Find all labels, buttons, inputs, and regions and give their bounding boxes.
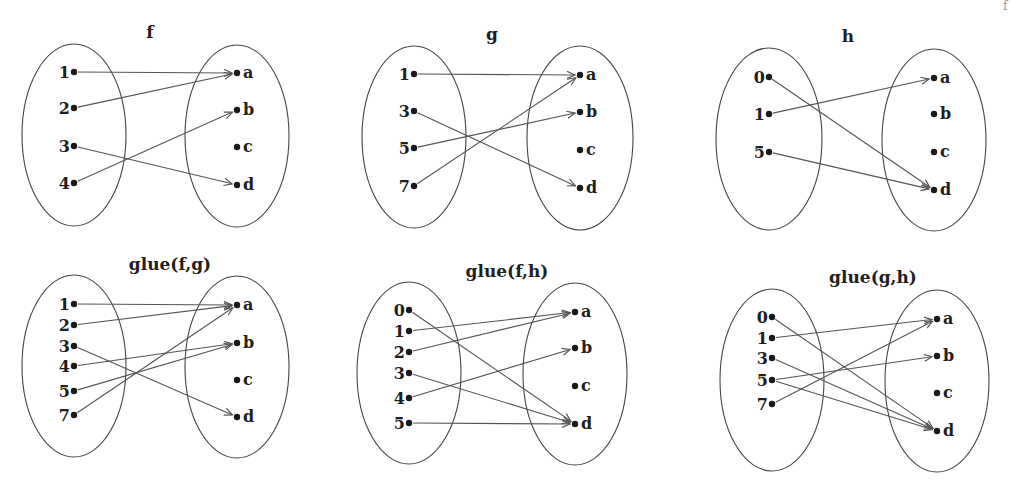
- codomain-element-label: c: [243, 370, 253, 389]
- codomain-element-dot: [572, 421, 578, 427]
- mapping-arrow-3-to-d: [78, 147, 232, 184]
- domain-element-label: 1: [757, 329, 768, 348]
- diagram-glue-f-g: glue(f,g)123457abcd: [22, 254, 289, 458]
- diagram-title: glue(f,h): [466, 261, 549, 281]
- mapping-arrow-5-to-b: [418, 113, 575, 147]
- domain-element-label: 3: [394, 364, 405, 383]
- domain-element-dot: [766, 111, 772, 117]
- codomain-element-dot: [577, 147, 583, 153]
- mapping-arrow-3-to-d: [776, 360, 933, 429]
- mapping-arrow-5-to-b: [776, 357, 932, 380]
- domain-element-label: 1: [59, 295, 70, 314]
- domain-element-label: 1: [399, 65, 410, 84]
- domain-element-label: 3: [59, 337, 70, 356]
- codomain-element-label: b: [243, 100, 254, 119]
- codomain-element-label: a: [243, 63, 253, 82]
- codomain-element-label: d: [243, 175, 254, 194]
- codomain-element-label: a: [940, 68, 950, 87]
- codomain-element-label: d: [940, 180, 951, 199]
- domain-element-dot: [71, 105, 77, 111]
- diagram-title: f: [146, 22, 155, 42]
- domain-element-label: 5: [394, 414, 405, 433]
- domain-element-label: 7: [757, 395, 768, 414]
- domain-element-label: 2: [59, 99, 70, 118]
- mapping-arrow-1-to-a: [776, 320, 932, 338]
- codomain-element-dot: [572, 309, 578, 315]
- domain-element-dot: [411, 183, 417, 189]
- codomain-element-dot: [234, 144, 240, 150]
- diagram-title: h: [842, 26, 854, 46]
- mapping-arrow-1-to-a: [78, 304, 232, 305]
- domain-element-dot: [769, 355, 775, 361]
- domain-element-dot: [71, 322, 77, 328]
- codomain-element-label: d: [581, 414, 592, 433]
- codomain-element-label: b: [940, 104, 951, 123]
- codomain-element-label: a: [586, 65, 596, 84]
- diagram-f: f1234abcd: [22, 22, 289, 227]
- codomain-element-dot: [572, 345, 578, 351]
- domain-element-dot: [411, 71, 417, 77]
- domain-element-dot: [406, 349, 412, 355]
- domain-element-label: 4: [394, 389, 405, 408]
- mapping-arrow-0-to-d: [775, 319, 933, 428]
- codomain-element-dot: [931, 149, 937, 155]
- domain-element-label: 0: [757, 308, 768, 327]
- mapping-arrow-7-to-a: [77, 308, 233, 413]
- domain-element-dot: [71, 69, 77, 75]
- diagram-glue-f-h: glue(f,h)012345abcd: [357, 261, 627, 465]
- domain-element-dot: [769, 401, 775, 407]
- mapping-arrow-3-to-d: [78, 348, 233, 415]
- domain-element-label: 2: [59, 316, 70, 335]
- codomain-element-label: b: [943, 346, 954, 365]
- codomain-element-label: a: [581, 302, 591, 321]
- domain-element-label: 2: [394, 343, 405, 362]
- domain-element-dot: [71, 143, 77, 149]
- codomain-element-dot: [572, 383, 578, 389]
- mapping-arrow-3-to-d: [413, 374, 570, 422]
- codomain-element-label: b: [581, 338, 592, 357]
- domain-element-label: 4: [59, 174, 70, 193]
- domain-element-label: 3: [59, 137, 70, 156]
- domain-element-dot: [406, 395, 412, 401]
- domain-element-label: 7: [59, 406, 70, 425]
- codomain-element-dot: [234, 70, 240, 76]
- mapping-arrow-7-to-a: [417, 78, 576, 184]
- domain-element-dot: [769, 314, 775, 320]
- diagram-title: glue(g,h): [829, 267, 917, 287]
- domain-element-label: 0: [754, 68, 765, 87]
- domain-element-dot: [71, 343, 77, 349]
- domain-element-dot: [406, 328, 412, 334]
- domain-element-label: 1: [59, 63, 70, 82]
- codomain-element-label: a: [243, 295, 253, 314]
- codomain-element-label: d: [586, 178, 597, 197]
- domain-element-dot: [769, 335, 775, 341]
- domain-element-dot: [71, 301, 77, 307]
- domain-element-label: 0: [394, 301, 405, 320]
- domain-element-label: 5: [399, 139, 410, 158]
- domain-element-dot: [766, 149, 772, 155]
- mapping-arrow-4-to-b: [413, 349, 570, 396]
- codomain-element-dot: [931, 111, 937, 117]
- diagram-glue-g-h: glue(g,h)01357abcd: [720, 267, 989, 472]
- codomain-element-label: c: [943, 383, 953, 402]
- codomain-element-dot: [934, 316, 940, 322]
- mapping-arrow-7-to-a: [776, 321, 933, 402]
- codomain-element-dot: [234, 340, 240, 346]
- domain-element-dot: [766, 74, 772, 80]
- diagram-title: glue(f,g): [129, 254, 211, 274]
- codomain-element-label: c: [581, 376, 591, 395]
- domain-element-label: 4: [59, 357, 70, 376]
- domain-element-dot: [411, 108, 417, 114]
- codomain-element-dot: [934, 428, 940, 434]
- domain-element-label: 7: [399, 177, 410, 196]
- mapping-arrow-2-to-a: [78, 306, 232, 325]
- domain-element-label: 1: [754, 105, 765, 124]
- codomain-element-label: b: [586, 102, 597, 121]
- diagram-h: h015abcd: [716, 26, 986, 231]
- mapping-arrow-5-to-b: [78, 344, 232, 389]
- function-diagrams-canvas: f f1234abcdg1357abcdh015abcdglue(f,g)123…: [0, 0, 1013, 496]
- mapping-arrow-4-to-b: [78, 112, 233, 181]
- codomain-element-dot: [234, 414, 240, 420]
- codomain-element-dot: [577, 72, 583, 78]
- domain-element-dot: [406, 370, 412, 376]
